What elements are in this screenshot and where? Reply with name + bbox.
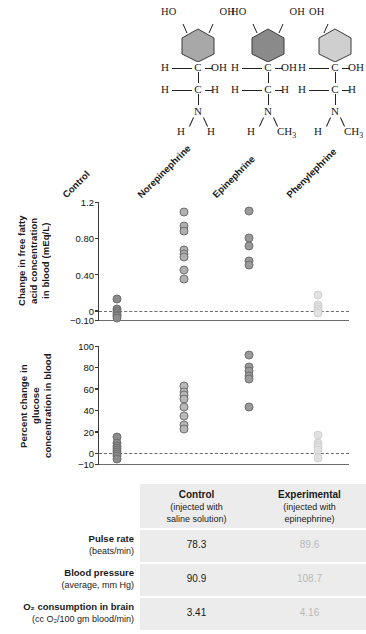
row-header: Blood pressure(average, mm Hg) [0, 567, 134, 591]
data-point [180, 275, 189, 284]
group-label-epinephrine: Epinephrine [210, 153, 257, 200]
y-tick-mark [95, 238, 99, 239]
data-point [245, 403, 254, 412]
chain-h-left: H [161, 62, 169, 73]
amine-h: H [314, 126, 322, 137]
amine-substituents: HCH3 [292, 126, 366, 148]
column-title: Control [179, 489, 215, 500]
y-tick-mark [95, 320, 99, 321]
side-chain: HCOHHCHNHCH3 [292, 62, 366, 148]
row-label: Blood pressure [64, 567, 134, 578]
ring-hydroxyls: OH [292, 4, 366, 18]
column-header-control: Control(injected withsaline solution) [140, 489, 253, 526]
y-tick-mark [95, 464, 99, 465]
data-point [245, 242, 254, 251]
cell-experimental: 108.7 [253, 573, 366, 584]
row-sublabel: (beats/min) [89, 546, 134, 556]
free-fatty-acid-chart: Change in free fatty acid concentration … [0, 196, 366, 334]
amine-h: H [177, 126, 185, 137]
cell-control: 78.3 [140, 539, 253, 550]
group-label-norepinephrine: Norepinephrine [135, 143, 192, 200]
column-subtitle: (injected withepinephrine) [283, 502, 336, 525]
chain-h-left-2: H [298, 84, 306, 95]
hydroxyl-label-left: HO [161, 6, 177, 17]
hydroxyl-label: OH [309, 6, 325, 17]
amine-h: H [247, 126, 255, 137]
chain-oh: OH [348, 62, 364, 73]
amine-substituent: H [207, 126, 215, 137]
zero-reference-line [99, 453, 349, 454]
zero-reference-line [99, 311, 349, 312]
column-title: Experimental [278, 489, 341, 500]
y-tick-mark [95, 388, 99, 389]
amine-n: N [264, 106, 272, 117]
row-sublabel: (cc O₂/100 gm blood/min) [32, 614, 134, 624]
data-point [180, 227, 189, 236]
amine-substituent: CH3 [344, 126, 363, 140]
row-header: O₂ consumption in brain(cc O₂/100 gm blo… [0, 601, 134, 625]
y-tick-mark [95, 274, 99, 275]
benzene-ring [176, 22, 220, 66]
y-axis-label: Change in free fatty acid concentration … [16, 202, 52, 320]
data-point [245, 260, 254, 269]
epinephrine-effects-table: Control(injected withsaline solution)Exp… [0, 484, 366, 634]
cell-control: 3.41 [140, 607, 253, 618]
molecule-structures: HOOHHCOHHCHNHHHOOHHCOHHCHNHCH3OHHCOHHCHN… [0, 0, 366, 152]
y-tick-mark [95, 431, 99, 432]
data-point [112, 454, 121, 463]
plot-area: 100806040200−10 [98, 346, 349, 465]
row-divider [140, 562, 366, 564]
y-tick-mark [95, 346, 99, 347]
row-label: Pulse rate [89, 533, 134, 544]
chain-nitrogen: N [292, 106, 366, 126]
column-subtitle: (injected withsaline solution) [166, 502, 226, 525]
data-point [245, 375, 254, 384]
data-point [112, 314, 121, 323]
cell-experimental: 89.6 [253, 539, 366, 550]
chain-h-left-2: H [231, 84, 239, 95]
cell-control: 90.9 [140, 573, 253, 584]
data-point [180, 411, 189, 420]
amine-n: N [331, 106, 339, 117]
y-tick-mark [95, 367, 99, 368]
group-label-phenylephrine: Phenylephrine [284, 146, 338, 200]
chain-carbon-2: HCH [292, 84, 366, 106]
chain-h-left: H [298, 62, 306, 73]
data-point [180, 207, 189, 216]
group-labels: ControlNorepinephrineEpinephrinePhenylep… [0, 150, 366, 202]
benzene-ring [313, 22, 357, 66]
figure-root: HOOHHCOHHCHNHHHOOHHCOHHCHNHCH3OHHCOHHCHN… [0, 0, 366, 634]
data-point [313, 290, 322, 299]
y-tick-mark [95, 410, 99, 411]
cell-experimental: 4.16 [253, 607, 366, 618]
data-point [180, 424, 189, 433]
data-point [180, 253, 189, 262]
chain-h-left-2: H [161, 84, 169, 95]
data-point [313, 308, 322, 317]
chain-carbon-1: HCOH [292, 62, 366, 84]
header-divider [140, 528, 366, 530]
column-header-experimental: Experimental(injected withepinephrine) [253, 489, 366, 526]
data-point [245, 207, 254, 216]
hydroxyl-label-left: HO [231, 6, 247, 17]
y-axis-label: Percent change in glucose concentration … [18, 350, 54, 462]
phenylephrine-structure: OHHCOHHCHNHCH3 [292, 4, 366, 152]
y-tick-mark [95, 202, 99, 203]
data-point [245, 350, 254, 359]
data-point [180, 266, 189, 275]
amine-n: N [194, 106, 202, 117]
glucose-chart: Percent change in glucose concentration … [0, 340, 366, 478]
row-header: Pulse rate(beats/min) [0, 533, 134, 557]
data-point [112, 295, 121, 304]
row-divider [140, 596, 366, 598]
row-label: O₂ consumption in brain [23, 601, 134, 612]
benzene-ring [246, 22, 290, 66]
chain-h-left: H [231, 62, 239, 73]
plot-area: 1.20.800.400−0.10 [98, 202, 349, 321]
data-point [313, 453, 322, 462]
row-sublabel: (average, mm Hg) [61, 580, 134, 590]
